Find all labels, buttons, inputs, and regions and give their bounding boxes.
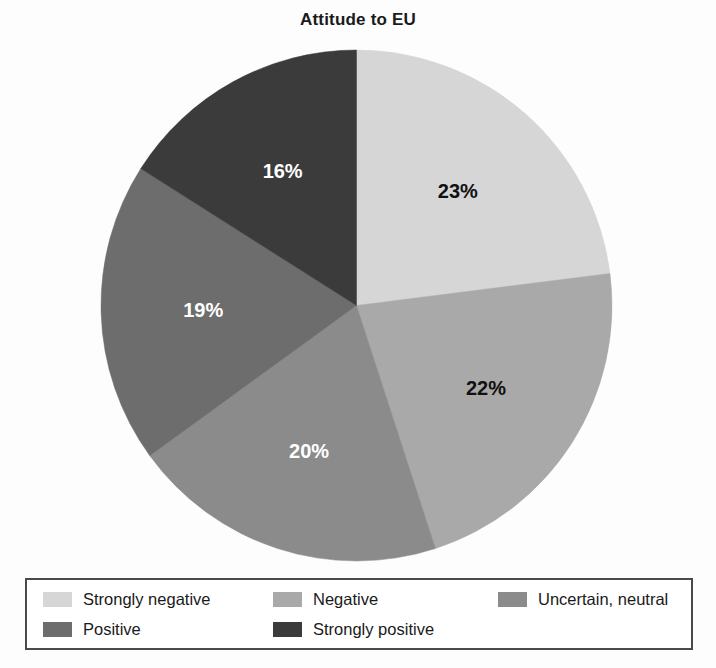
legend-swatch-icon [43,622,72,637]
legend-item[interactable]: Positive [43,620,273,639]
legend-item[interactable]: Strongly positive [273,620,498,639]
pie-slice-group [101,50,612,561]
legend-item-label: Negative [313,590,378,609]
legend-item-label: Positive [83,620,141,639]
pie-chart-svg: 23%22%20%19%16% [100,49,613,562]
legend-swatch-icon [273,592,302,607]
legend-item-label: Strongly positive [313,620,434,639]
pie-slice-label: 16% [263,160,303,182]
legend-item[interactable]: Negative [273,590,498,609]
legend-swatch-icon [273,622,302,637]
pie-slice-label: 20% [289,440,329,462]
legend: Strongly negativeNegativeUncertain, neut… [25,578,693,650]
legend-item[interactable]: Strongly negative [43,590,273,609]
pie-chart: 23%22%20%19%16% [100,49,613,562]
chart-page: Attitude to EU 23%22%20%19%16% Strongly … [0,0,716,668]
pie-slice [357,50,610,306]
legend-swatch-icon [43,592,72,607]
legend-grid: Strongly negativeNegativeUncertain, neut… [27,580,691,648]
pie-slice-label: 23% [438,180,478,202]
legend-item-label: Strongly negative [83,590,211,609]
pie-slice-label: 22% [466,377,506,399]
pie-slice-label: 19% [183,299,223,321]
page-title: Attitude to EU [0,10,716,30]
legend-item[interactable]: Uncertain, neutral [498,590,691,609]
legend-item-label: Uncertain, neutral [538,590,668,609]
legend-swatch-icon [498,592,527,607]
